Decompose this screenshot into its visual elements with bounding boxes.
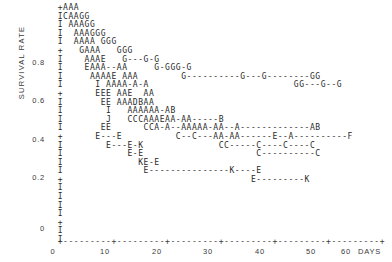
x-axis-line: +---------+---------+---------+---------…	[47, 238, 385, 247]
x-tick-label-2: 20	[152, 247, 162, 256]
x-tick-label-1: 10	[100, 247, 110, 256]
ascii-survival-plot: SURVIVAL RATE 0.80.60.40.20 +AAA ICAAGG …	[0, 0, 392, 262]
x-tick-label-5: 50	[306, 247, 316, 256]
x-axis-tick-labels: DAYS 0102030405060	[0, 247, 392, 261]
x-tick-label-4: 40	[255, 247, 265, 256]
y-tick-label-1: 0.6	[5, 96, 45, 105]
plot-body-ascii: +AAA ICAAGG I AAAGG I AAAGGG I AAAA GGG …	[47, 4, 353, 245]
y-tick-label-3: 0.2	[5, 173, 45, 182]
x-axis-unit-label: DAYS	[358, 247, 381, 256]
y-axis-tick-labels: 0.80.60.40.20	[0, 0, 45, 262]
x-tick-label-0: 0	[51, 247, 56, 256]
x-tick-label-3: 30	[203, 247, 213, 256]
y-tick-label-2: 0.4	[5, 135, 45, 144]
y-tick-label-4: 0	[5, 224, 45, 233]
x-tick-label-6: 60	[341, 247, 351, 256]
y-tick-label-0: 0.8	[5, 58, 45, 67]
